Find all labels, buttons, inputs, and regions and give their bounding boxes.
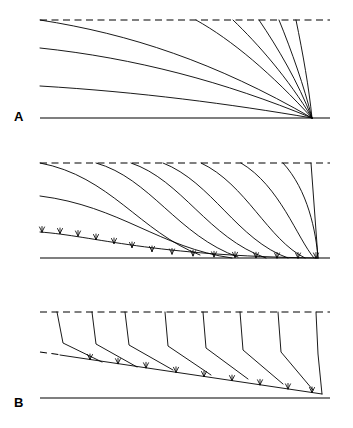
panel-c-basal-thrust xyxy=(60,355,322,394)
panel-c: C xyxy=(0,286,353,428)
panel-a-trajectory-5 xyxy=(233,20,312,118)
panel-label-a: A xyxy=(14,110,24,123)
panel-c-segment-6 xyxy=(240,312,283,384)
panel-b-trajectory-8 xyxy=(283,163,318,258)
panel-c-basal-dashed-extension xyxy=(40,352,62,355)
panel-b-trajectory-1 xyxy=(40,163,200,255)
panel-c-canvas xyxy=(0,286,353,428)
panel-b-trajectory-2 xyxy=(40,196,232,258)
panel-b: B xyxy=(0,143,353,286)
panel-c-segment-7 xyxy=(278,312,313,390)
panel-a-canvas xyxy=(0,0,353,143)
panel-a-trajectory-2 xyxy=(40,48,312,118)
panel-c-hatch-marks xyxy=(88,354,315,393)
panel-b-hatch-marks xyxy=(40,227,319,259)
figure-root: A xyxy=(0,0,353,428)
panel-a-trajectory-7 xyxy=(279,20,312,118)
panel-c-segment-8 xyxy=(316,312,322,394)
panel-a: A xyxy=(0,0,353,143)
panel-b-trajectory-5 xyxy=(163,163,288,258)
panel-b-trajectory-9 xyxy=(311,163,318,258)
panel-b-trajectory-4 xyxy=(131,163,266,258)
panel-b-canvas xyxy=(0,143,353,286)
panel-c-segment-5 xyxy=(203,312,248,379)
panel-b-trajectory-7 xyxy=(241,163,314,258)
panel-a-trajectory-1 xyxy=(40,20,312,118)
panel-b-trajectory-6 xyxy=(201,163,305,258)
panel-c-segment-2 xyxy=(92,312,137,367)
